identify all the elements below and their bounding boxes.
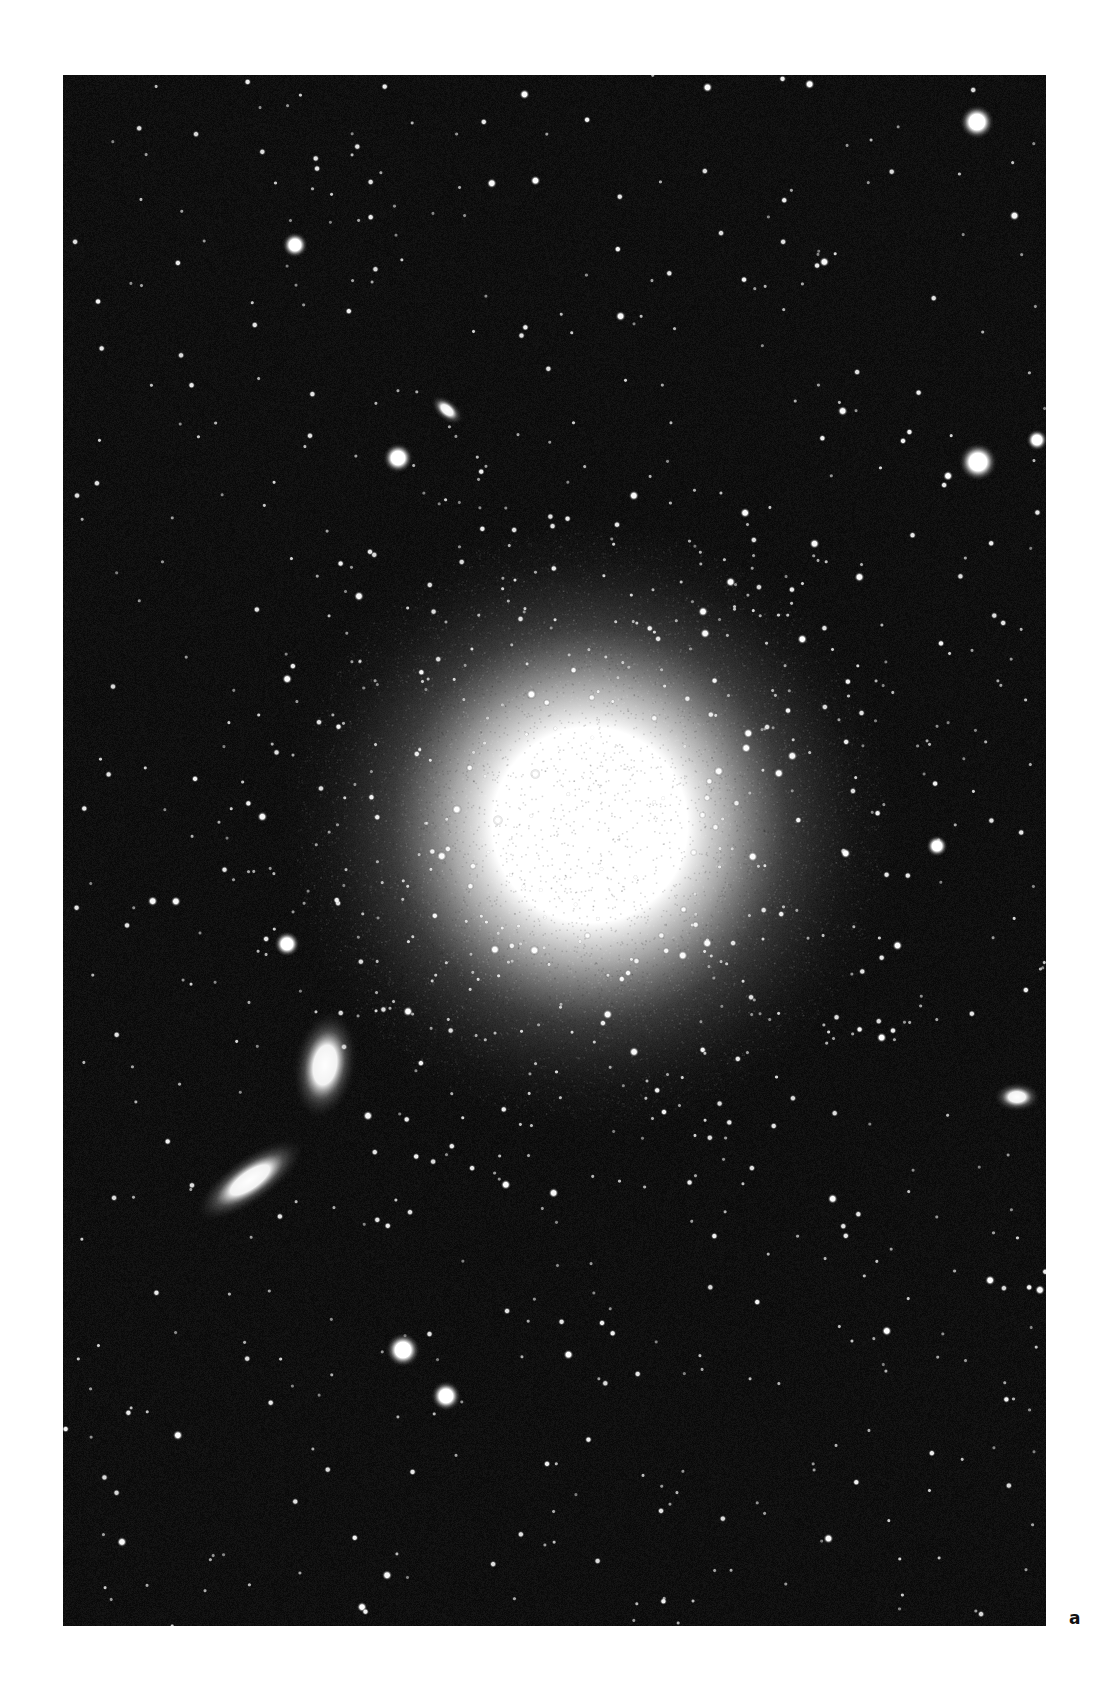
running-head — [62, 0, 157, 9]
panel-label: a — [1069, 1608, 1080, 1628]
astronomical-photograph — [63, 75, 1046, 1626]
star-field-canvas — [63, 75, 1046, 1626]
